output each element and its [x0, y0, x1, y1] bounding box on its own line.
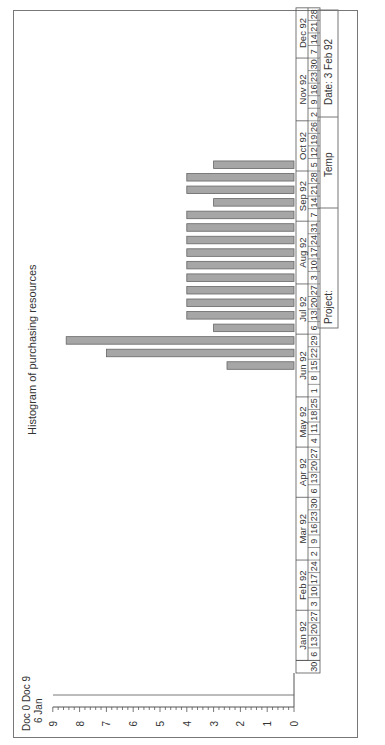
- week-label: 30: [309, 662, 319, 672]
- bar: [214, 324, 294, 332]
- week-label: 29: [309, 335, 319, 345]
- month-label: Aug 92: [297, 238, 308, 268]
- month-label: Jan 92: [297, 621, 308, 650]
- y-tick-label: 9: [48, 721, 59, 727]
- week-label: 20: [309, 624, 319, 634]
- y-tick-label: 4: [182, 721, 193, 727]
- project-info-box: Project: Temp Date: 3 Feb 92: [318, 10, 338, 328]
- bar: [187, 286, 294, 294]
- y-axis: 0123456789: [0, 673, 300, 727]
- week-label: 2: [309, 551, 319, 556]
- bar: [187, 249, 294, 257]
- y-axis-ticks: [0, 707, 294, 725]
- bar: [214, 161, 294, 169]
- week-label: 13: [309, 637, 319, 647]
- week-label: 15: [309, 361, 319, 371]
- week-label: 1: [309, 388, 319, 393]
- month-label: May 92: [297, 406, 308, 437]
- week-label: 20: [309, 461, 319, 471]
- temp-label: Temp: [323, 152, 334, 177]
- bar: [106, 349, 294, 357]
- month-label: Jun 92: [297, 351, 308, 380]
- week-label: 22: [309, 348, 319, 358]
- week-label: 27: [309, 612, 319, 622]
- bar: [187, 261, 294, 269]
- bar: [187, 174, 294, 182]
- date-label: Date: 3 Feb 92: [323, 38, 334, 105]
- week-label: 6: [309, 489, 319, 494]
- bar: [187, 186, 294, 194]
- y-tick-label: 6: [128, 721, 139, 727]
- week-label: 6: [309, 652, 319, 657]
- y-tick-label: 7: [101, 721, 112, 727]
- week-label: 27: [309, 448, 319, 458]
- month-label: Sep 92: [297, 181, 308, 211]
- bar: [187, 312, 294, 320]
- bar: [187, 299, 294, 307]
- bar: [187, 224, 294, 232]
- week-label: 30: [309, 499, 319, 509]
- project-label: Project:: [323, 290, 334, 324]
- week-label: 4: [309, 438, 319, 443]
- bar: [187, 274, 294, 282]
- y-tick-label: 0: [289, 721, 300, 727]
- corner-label-date: 6 Jan: [33, 699, 44, 723]
- week-label: 13: [309, 473, 319, 483]
- y-tick-label: 1: [262, 721, 273, 727]
- week-label: 16: [309, 524, 319, 534]
- week-label: 24: [309, 561, 319, 571]
- week-label: 9: [309, 539, 319, 544]
- y-tick-label: 5: [155, 721, 166, 727]
- y-tick-label: 3: [209, 721, 220, 727]
- chart-title: Histogram of purchasing resources: [26, 264, 38, 435]
- bar: [187, 211, 294, 219]
- month-label: Nov 92: [297, 74, 308, 104]
- corner-label: Doc 0 Doc 9: [21, 676, 32, 731]
- month-label: Feb 92: [297, 570, 308, 600]
- week-label: 17: [309, 574, 319, 584]
- y-tick-label: 8: [75, 721, 86, 727]
- y-tick-label: 2: [235, 721, 246, 727]
- month-label: Mar 92: [297, 514, 308, 544]
- week-label: 3: [309, 601, 319, 606]
- week-label: 18: [309, 411, 319, 421]
- bars: [66, 161, 294, 369]
- week-label: 8: [309, 376, 319, 381]
- bar: [66, 337, 294, 345]
- bar: [187, 236, 294, 244]
- rotated-chart-page: 0123456789 30613202731017242916233061320…: [0, 0, 385, 745]
- month-label: Oct 92: [297, 132, 308, 160]
- month-label: Dec 92: [297, 18, 308, 48]
- month-label: Apr 92: [297, 458, 308, 486]
- bar: [214, 199, 294, 207]
- histogram-chart: 0123456789 30613202731017242916233061320…: [0, 0, 385, 745]
- week-label: 23: [309, 511, 319, 521]
- week-label: 10: [309, 586, 319, 596]
- bar: [227, 362, 294, 370]
- month-label: Jul 92: [297, 296, 308, 321]
- timeline: 3061320273101724291623306132027411182518…: [296, 8, 320, 673]
- week-label: 25: [309, 398, 319, 408]
- week-label: 11: [309, 424, 319, 433]
